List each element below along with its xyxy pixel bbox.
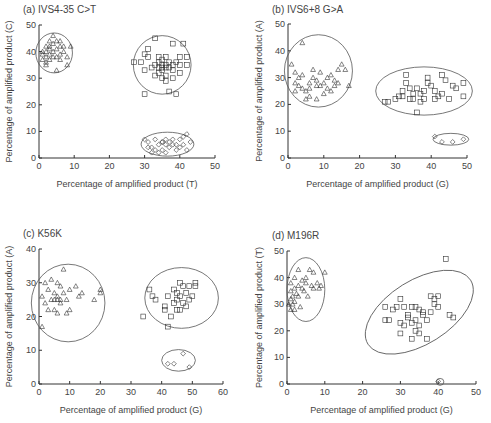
panel-title: (d) M196R <box>272 230 319 241</box>
y-tick-label: 40 <box>274 273 284 283</box>
square-marker <box>461 81 466 86</box>
figure-canvas: (a) IVS4-35 C>T0102030405001020304050Per… <box>0 0 491 423</box>
square-marker <box>178 280 183 285</box>
triangle-marker <box>40 294 45 298</box>
square-marker <box>132 60 137 65</box>
cluster-homozygous-C <box>36 33 73 73</box>
triangle-marker <box>307 94 312 98</box>
square-marker <box>404 73 409 78</box>
y-tick-label: 20 <box>274 326 284 336</box>
x-tick-label: 20 <box>358 387 368 397</box>
y-tick-label: 10 <box>26 126 36 136</box>
cluster-heterozygous <box>351 253 487 371</box>
triangle-marker <box>294 291 299 295</box>
triangle-marker <box>311 75 316 79</box>
y-tick-label: 30 <box>274 299 284 309</box>
x-tick-label: 10 <box>65 387 75 397</box>
triangle-marker <box>307 81 312 85</box>
square-marker <box>177 70 182 75</box>
diamond-marker <box>165 361 170 366</box>
x-tick-label: 20 <box>95 387 105 397</box>
triangle-marker <box>51 33 56 37</box>
triangle-marker <box>52 307 57 311</box>
triangle-marker <box>65 55 70 59</box>
triangle-marker <box>322 270 327 274</box>
square-marker <box>184 55 189 60</box>
square-marker <box>424 318 429 323</box>
square-marker <box>170 41 175 46</box>
triangle-marker <box>325 86 330 90</box>
triangle-marker <box>293 70 298 74</box>
y-axis-label: Percentage of amplified product (C) <box>4 20 14 162</box>
cluster-ellipse <box>31 264 105 342</box>
triangle-marker <box>293 89 298 93</box>
panel-d: (d) M196R0102030405001020304050Percentag… <box>254 230 488 415</box>
x-tick-label: 10 <box>69 161 79 171</box>
x-axis-label: Percentage of amplified product (G) <box>306 179 449 189</box>
triangle-marker <box>336 67 341 71</box>
square-marker <box>443 257 448 262</box>
x-tick-label: 10 <box>319 161 329 171</box>
triangle-marker <box>80 290 85 294</box>
triangle-marker <box>64 297 69 301</box>
cluster-homozygous-T <box>286 258 327 322</box>
square-marker <box>398 296 403 301</box>
y-tick-label: 20 <box>26 100 36 110</box>
square-marker <box>443 78 448 83</box>
square-marker <box>414 86 419 91</box>
triangle-marker <box>293 81 298 85</box>
square-marker <box>146 47 151 52</box>
square-marker <box>142 92 147 97</box>
triangle-marker <box>296 267 301 271</box>
square-marker <box>187 284 192 289</box>
x-tick-label: 50 <box>462 161 472 171</box>
square-marker <box>147 287 152 292</box>
square-marker <box>386 99 391 104</box>
square-marker <box>411 91 416 96</box>
square-marker <box>409 336 414 341</box>
square-marker <box>150 294 155 299</box>
diamond-marker <box>146 145 151 150</box>
triangle-marker <box>67 307 72 311</box>
square-marker <box>184 290 189 295</box>
panel-title: (a) IVS4-35 C>T <box>23 4 96 15</box>
triangle-marker <box>296 283 301 287</box>
square-marker <box>414 110 419 115</box>
square-marker <box>174 92 179 97</box>
x-tick-label: 50 <box>210 161 220 171</box>
square-marker <box>184 304 189 309</box>
y-tick-label: 10 <box>274 352 284 362</box>
triangle-marker <box>43 280 48 284</box>
diamond-marker <box>172 361 177 366</box>
x-tick-label: 20 <box>355 161 365 171</box>
square-marker <box>187 297 192 302</box>
triangle-marker <box>298 304 303 308</box>
triangle-marker <box>92 297 97 301</box>
y-tick-label: 50 <box>26 20 36 30</box>
square-marker <box>425 75 430 80</box>
x-tick-label: 20 <box>104 161 114 171</box>
square-marker <box>190 294 195 299</box>
y-tick-label: 0 <box>31 153 36 163</box>
y-tick-label: 0 <box>31 379 36 389</box>
square-marker <box>165 294 170 299</box>
square-marker <box>172 301 177 306</box>
x-tick-label: 30 <box>126 387 136 397</box>
cluster-ellipse <box>145 268 219 329</box>
cluster-heterozygous <box>141 268 219 329</box>
triangle-marker <box>55 280 60 284</box>
triangle-marker <box>289 62 294 66</box>
x-axis-label: Percentage of amplified product (G) <box>310 405 453 415</box>
y-axis-label: Percentage of amplified product (T) <box>254 247 264 388</box>
square-marker <box>447 97 452 102</box>
triangle-marker <box>73 284 78 288</box>
square-marker <box>175 290 180 295</box>
square-marker <box>153 297 158 302</box>
diamond-marker <box>153 137 158 142</box>
x-tick-label: 10 <box>320 387 330 397</box>
triangle-marker <box>343 67 348 71</box>
square-marker <box>400 94 405 99</box>
y-tick-label: 0 <box>279 379 284 389</box>
triangle-marker <box>67 287 72 291</box>
triangle-marker <box>315 281 320 285</box>
